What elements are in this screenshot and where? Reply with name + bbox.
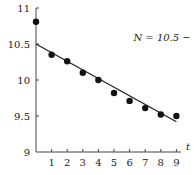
data-point	[64, 58, 70, 64]
x-tick-label: 3	[80, 157, 86, 168]
data-point	[48, 52, 54, 58]
chart: 99.51010.511 123456789t N = 10.5 − 0.12t	[0, 0, 194, 175]
x-tick-label: 5	[111, 157, 117, 168]
x-tick-label: 9	[173, 157, 179, 168]
equation-label: N = 10.5 − 0.12t	[132, 32, 194, 43]
fit-line-path	[36, 44, 176, 122]
x-tick-label: 7	[142, 157, 148, 168]
x-tick-label: 6	[126, 157, 132, 168]
data-point	[158, 111, 164, 117]
y-tick-label: 10.5	[8, 39, 30, 50]
y-axis: 99.51010.511	[8, 3, 39, 158]
annotations: N = 10.5 − 0.12t	[132, 32, 194, 43]
y-tick-label: 11	[17, 3, 30, 14]
x-tick-label: 1	[48, 157, 54, 168]
x-axis: 123456789t	[36, 141, 191, 168]
y-tick-label: 9	[24, 147, 30, 158]
x-axis-label: t	[186, 141, 191, 152]
data-point	[126, 98, 132, 104]
data-point	[111, 90, 117, 96]
data-point	[95, 77, 101, 83]
data-point	[173, 113, 179, 119]
data-point	[142, 105, 148, 111]
x-tick-label: 8	[158, 157, 164, 168]
y-tick-label: 10	[17, 75, 30, 86]
data-point	[33, 18, 39, 24]
fit-line	[36, 44, 176, 122]
data-point	[80, 70, 86, 76]
y-tick-label: 9.5	[14, 111, 30, 122]
x-tick-label: 2	[64, 157, 70, 168]
x-tick-label: 4	[95, 157, 101, 168]
